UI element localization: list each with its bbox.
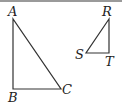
label-s: S	[75, 47, 84, 62]
triangle-rst	[86, 19, 109, 53]
label-b: B	[7, 90, 18, 105]
label-c: C	[62, 82, 72, 97]
label-t: T	[105, 54, 115, 69]
triangle-abc	[13, 19, 61, 89]
label-r: R	[101, 4, 112, 19]
triangles-figure: A B C R S T	[0, 0, 122, 109]
diagram-canvas: A B C R S T	[0, 0, 122, 109]
label-a: A	[7, 4, 17, 19]
